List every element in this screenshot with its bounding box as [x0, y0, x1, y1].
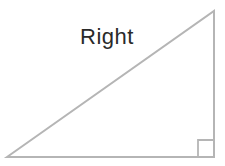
- triangle-label: Right: [80, 24, 134, 49]
- diagram-canvas: Right: [0, 0, 225, 166]
- right-angle-marker: [198, 140, 214, 156]
- right-triangle-figure: Right: [0, 0, 225, 166]
